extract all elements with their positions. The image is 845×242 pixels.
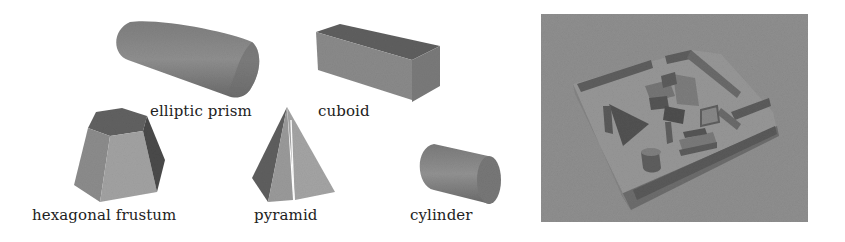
label-cuboid: cuboid — [318, 104, 370, 119]
cuboid-shape — [316, 24, 440, 106]
hexagonal-frustum-shape — [74, 108, 165, 202]
label-pyramid: pyramid — [254, 208, 318, 223]
figure: elliptic prism cuboid hexagonal frustum … — [0, 0, 845, 242]
cylinder-shape — [420, 144, 501, 204]
rendered-scene-image — [541, 14, 808, 222]
label-hexagonal-frustum: hexagonal frustum — [32, 208, 176, 223]
label-cylinder: cylinder — [410, 208, 473, 223]
elliptic-prism-shape — [116, 21, 259, 97]
label-elliptic-prism: elliptic prism — [150, 104, 252, 119]
pyramid-shape — [252, 107, 335, 202]
